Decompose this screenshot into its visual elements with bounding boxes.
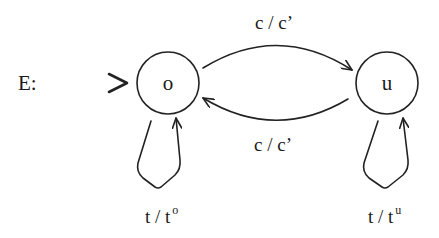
state-u-label: u — [382, 71, 393, 95]
state-u[interactable]: u — [356, 52, 418, 114]
self-loop-o-input: t — [145, 206, 151, 227]
self-loop-o-output-superscript: o — [172, 203, 178, 217]
self-loop-label-u: t / tu — [368, 203, 401, 227]
state-o-label: o — [163, 71, 174, 95]
self-loop-u-sep: / — [378, 206, 384, 227]
transition-arc-u-to-o[interactable] — [203, 98, 348, 120]
state-machine-diagram: E: c / c’ c / c’ o u t / to t / tu — [0, 0, 439, 238]
transition-label-u-to-o: c / c’ — [254, 134, 292, 155]
self-loop-u-output-superscript: u — [395, 203, 401, 217]
self-loop-u[interactable] — [364, 118, 409, 188]
transition-arc-o-to-u[interactable] — [203, 45, 352, 70]
self-loop-o-output: t — [165, 206, 171, 227]
initial-state-arrow-icon — [109, 74, 127, 92]
state-o[interactable]: o — [137, 52, 199, 114]
self-loop-label-o: t / to — [145, 203, 178, 227]
transition-label-o-to-u: c / c’ — [255, 12, 293, 33]
automaton-name: E: — [18, 71, 37, 95]
self-loop-u-input: t — [368, 206, 374, 227]
self-loop-u-output: t — [388, 206, 394, 227]
self-loop-o[interactable] — [138, 118, 181, 188]
self-loop-o-sep: / — [155, 206, 161, 227]
